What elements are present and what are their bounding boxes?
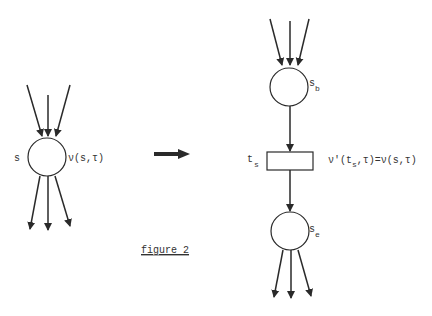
incoming-arc-3 [298,19,309,65]
figure-caption: figure 2 [141,245,189,256]
right-subnet: s b t s ν'(ts,τ)=ν(s,τ) s e [247,19,417,298]
annotation-pre: ν'(t [328,155,352,166]
transition-label: t [247,154,253,165]
place-s-label: s [14,153,20,164]
annotation-post: ,τ)=ν(s,τ) [357,155,417,166]
transition-annotation: ν'(ts,τ)=ν(s,τ) [328,155,417,169]
place-s-begin-subscript: b [315,84,320,93]
incoming-arc-3 [56,85,70,136]
incoming-arc-1 [27,85,42,136]
incoming-arc-1 [270,19,282,65]
outgoing-arc-1 [274,250,283,297]
outgoing-arc-3 [298,250,311,296]
transition-subscript: s [254,160,259,169]
place-s [28,138,66,176]
outgoing-arc-1 [30,176,40,229]
outgoing-arc-3 [55,176,70,226]
place-s-end-subscript: e [315,230,320,239]
place-s-begin [270,68,308,106]
diagram-canvas: s ν(s,τ) s b t s ν'(ts,τ)=ν(s,τ) s e fig… [0,0,432,316]
place-s-annotation: ν(s,τ) [68,153,104,164]
transition-t-s [267,152,313,170]
place-s-end [271,212,309,250]
left-subnet: s ν(s,τ) [14,85,104,230]
